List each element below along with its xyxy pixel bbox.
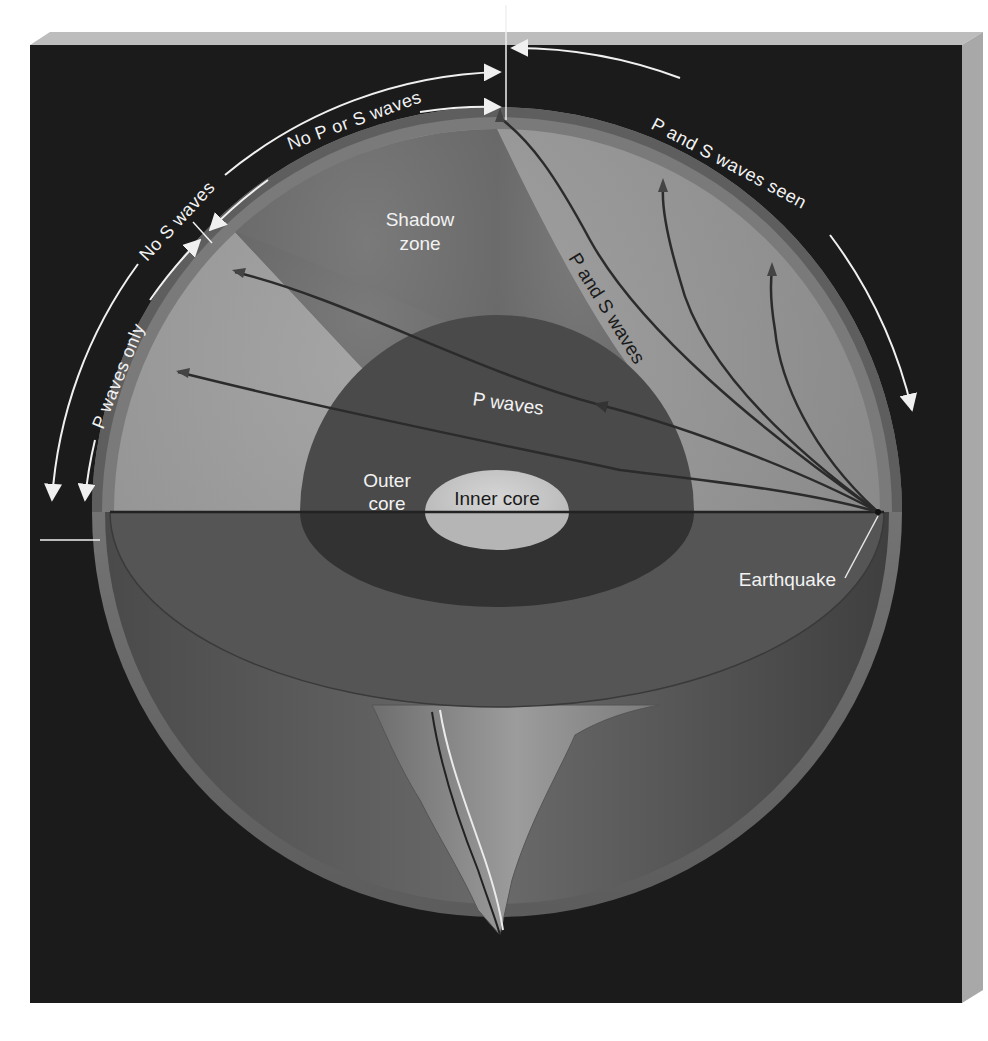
label-outer-core-1: Outer	[363, 470, 411, 491]
label-inner-core: Inner core	[454, 488, 540, 509]
label-shadow-zone-2: zone	[399, 233, 440, 254]
label-outer-core-2: core	[369, 493, 406, 514]
panel-side-bevel	[962, 32, 983, 1003]
label-shadow-zone-1: Shadow	[386, 209, 455, 230]
label-earthquake: Earthquake	[739, 569, 836, 590]
earthquake-focus	[875, 509, 881, 515]
earth-seismic-diagram: No P or S waves No S waves P waves only …	[0, 0, 988, 1041]
